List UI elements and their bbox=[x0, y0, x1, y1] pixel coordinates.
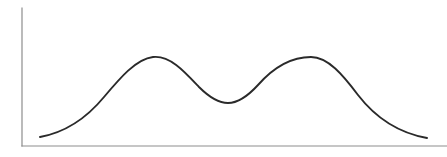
plot-background bbox=[0, 0, 447, 157]
plot-area bbox=[0, 0, 447, 157]
figure-root bbox=[0, 0, 447, 157]
